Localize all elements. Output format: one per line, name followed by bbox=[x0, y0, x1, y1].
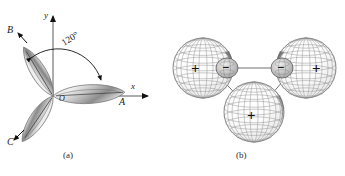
panel-b-svg: + + + − bbox=[172, 0, 345, 150]
axis-x-label: x bbox=[130, 81, 135, 91]
sphere-bottom-positive: + bbox=[224, 82, 284, 142]
panel-a-orbital-axes: y x B A C O 120° bbox=[0, 0, 172, 176]
lobe-a-label: A bbox=[118, 96, 126, 107]
axis-y-label: y bbox=[43, 10, 48, 20]
lobe-right-negative-sign: − bbox=[277, 60, 284, 75]
lobe-left-negative: − bbox=[216, 58, 238, 78]
lobe-b-label: B bbox=[7, 24, 13, 35]
sphere-right-sign: + bbox=[312, 60, 321, 76]
lobe-b-arrow bbox=[18, 33, 27, 43]
figure-root: y x B A C O 120° bbox=[0, 0, 345, 176]
panel-a-svg: y x B A C O 120° bbox=[0, 0, 172, 150]
sphere-left-sign: + bbox=[191, 60, 200, 76]
caption-panel-a: (a) bbox=[63, 150, 73, 160]
origin-label: O bbox=[59, 94, 65, 103]
caption-panel-b: (b) bbox=[236, 150, 247, 160]
panel-b-orbital-spheres: + + + − bbox=[172, 0, 345, 176]
angle-label: 120° bbox=[60, 30, 81, 48]
lobe-right-negative: − bbox=[271, 58, 293, 78]
sphere-bottom-sign: + bbox=[247, 107, 256, 123]
lobe-c-label: C bbox=[7, 136, 14, 147]
lobe-left-negative-sign: − bbox=[222, 60, 229, 75]
lobe-c-axis bbox=[25, 98, 52, 138]
lobe-c-lower-left bbox=[16, 92, 59, 146]
